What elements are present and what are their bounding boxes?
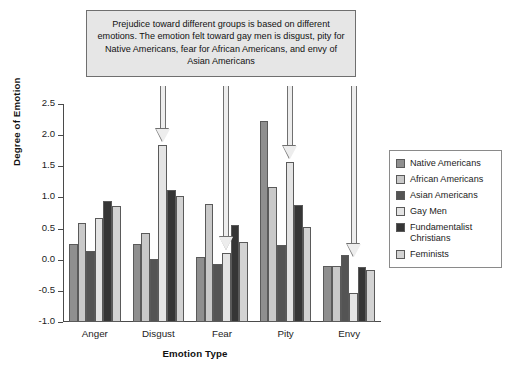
legend-item: Fundamentalist Christians — [396, 222, 496, 243]
y-axis-tick-label: 2.0 — [42, 128, 55, 139]
y-axis-tick: 0.5 — [58, 229, 63, 230]
bar — [222, 253, 231, 322]
x-axis-category-label: Disgust — [127, 328, 191, 339]
y-axis-tick: 0.0 — [58, 260, 63, 261]
y-axis-tick-label: 1.0 — [42, 190, 55, 201]
legend-swatch — [396, 223, 405, 232]
legend-swatch — [396, 159, 405, 168]
chart-figure: Prejudice toward different groups is bas… — [0, 0, 512, 375]
bar — [150, 259, 159, 322]
y-axis-tick-label: -1.0 — [38, 315, 55, 326]
arrow-head — [219, 237, 233, 250]
arrow-head — [347, 244, 361, 257]
bar — [366, 270, 375, 322]
y-axis-title: Degree of Emotion — [11, 77, 22, 166]
y-axis-tick: 1.5 — [58, 166, 63, 167]
y-axis-tick-label: 2.5 — [42, 97, 55, 108]
legend-item: African Americans — [396, 174, 496, 185]
x-axis-category-label: Envy — [317, 328, 381, 339]
annotation-arrow — [347, 86, 361, 258]
arrow-stem — [223, 86, 229, 236]
legend-item: Native Americans — [396, 158, 496, 169]
legend-item: Gay Men — [396, 206, 496, 217]
arrow-head — [283, 146, 297, 159]
bar — [86, 251, 95, 322]
legend-swatch — [396, 207, 405, 216]
bar — [260, 121, 269, 322]
arrow-head — [156, 129, 170, 142]
y-axis-tick-label: 1.5 — [42, 159, 55, 170]
annotation-text: Prejudice toward different groups is bas… — [98, 19, 345, 66]
bar — [303, 227, 312, 322]
legend-item: Asian Americans — [396, 190, 496, 201]
y-axis-tick: 2.0 — [58, 135, 63, 136]
x-axis-title: Emotion Type — [0, 348, 390, 359]
x-axis-category-label: Anger — [63, 328, 127, 339]
bar — [78, 223, 87, 322]
bar — [176, 196, 185, 322]
legend-label: African Americans — [410, 174, 483, 185]
bar — [213, 264, 222, 322]
bar — [277, 245, 286, 322]
bar — [205, 204, 214, 322]
bar — [141, 233, 150, 322]
y-axis-tick: 2.5 — [58, 104, 63, 105]
legend-label: Native Americans — [410, 158, 481, 169]
bar — [358, 267, 367, 322]
bar — [103, 201, 112, 322]
annotation-arrow — [156, 86, 170, 142]
arrow-stem — [287, 86, 293, 145]
bar — [341, 255, 350, 322]
annotation-arrow — [283, 86, 297, 160]
bar — [323, 266, 332, 322]
x-axis-category-label: Pity — [254, 328, 318, 339]
bar — [158, 145, 167, 323]
chart-legend: Native AmericansAfrican AmericansAsian A… — [389, 150, 502, 268]
y-axis-tick-label: -0.5 — [38, 284, 55, 295]
legend-label: Fundamentalist Christians — [410, 222, 496, 243]
y-axis-tick: -0.5 — [58, 291, 63, 292]
y-axis-line — [63, 104, 64, 322]
bar — [133, 244, 142, 322]
legend-label: Asian Americans — [410, 190, 478, 201]
y-axis-tick: -1.0 — [58, 322, 63, 323]
bar — [349, 293, 358, 322]
bar — [196, 257, 205, 322]
bar — [95, 218, 104, 322]
y-axis-tick: 1.0 — [58, 197, 63, 198]
y-axis-tick-label: 0.0 — [42, 253, 55, 264]
legend-swatch — [396, 191, 405, 200]
bar — [332, 266, 341, 322]
y-axis-tick-label: 0.5 — [42, 222, 55, 233]
bar — [294, 205, 303, 322]
x-axis-category-label: Fear — [190, 328, 254, 339]
bar — [239, 242, 248, 322]
bar — [69, 244, 78, 322]
legend-item: Feminists — [396, 249, 496, 260]
legend-swatch — [396, 175, 405, 184]
annotation-callout: Prejudice toward different groups is bas… — [86, 10, 356, 77]
arrow-stem — [160, 86, 166, 128]
annotation-arrow — [219, 86, 233, 251]
bar — [286, 162, 295, 322]
bar — [167, 190, 176, 322]
legend-label: Feminists — [410, 249, 449, 260]
arrow-stem — [351, 86, 357, 243]
bar — [112, 206, 121, 322]
legend-label: Gay Men — [410, 206, 447, 217]
legend-swatch — [396, 250, 405, 259]
bar — [268, 187, 277, 322]
